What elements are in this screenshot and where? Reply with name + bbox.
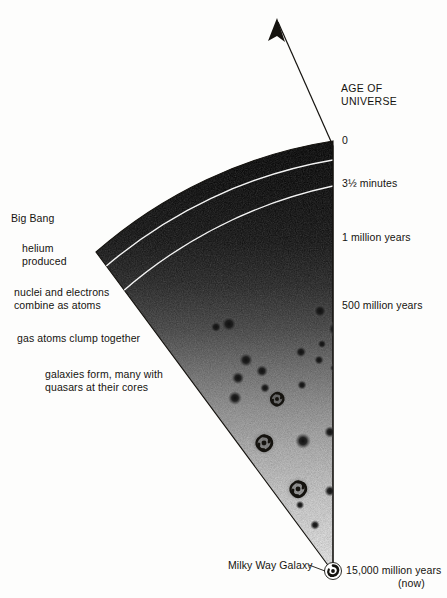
galaxy-blob: [310, 520, 320, 530]
spiral-galaxy: [251, 430, 276, 455]
galaxy-blob: [228, 391, 243, 406]
galaxy-blob: [221, 316, 237, 332]
age-of-universe-header: AGE OF UNIVERSE: [341, 82, 397, 108]
galaxy-blob: [314, 355, 324, 365]
spiral-galaxy: [285, 476, 310, 501]
tick-label-0: 0: [342, 134, 348, 147]
event-label-big-bang: Big Bang: [11, 212, 54, 225]
event-label-helium-produced: helium produced: [22, 242, 67, 268]
galaxy-blob: [324, 426, 336, 438]
tick-label-500-million-years: 500 million years: [342, 299, 423, 312]
event-label-nuclei-electrons: nuclei and electrons combine as atoms: [14, 286, 109, 312]
event-label-gas-atoms-clump: gas atoms clump together: [17, 332, 140, 345]
diagram-canvas: AGE OF UNIVERSE 0 3½ minutes 1 million y…: [0, 0, 447, 598]
galaxy-blob: [239, 353, 254, 368]
milky-way-galaxy-label: Milky Way Galaxy: [228, 559, 313, 572]
galaxy-blob: [295, 433, 311, 449]
galaxy-blob: [297, 380, 307, 390]
galaxy-blob: [324, 485, 336, 497]
galaxy-blob: [313, 304, 327, 318]
expansion-arrow-shaft: [278, 22, 333, 146]
galaxy-blob: [317, 339, 326, 348]
galaxy-blob: [231, 371, 244, 384]
galaxy-blob: [296, 501, 305, 510]
expansion-arrow-head: [268, 18, 285, 42]
galaxy-blob: [256, 365, 269, 378]
tick-label-15000-million-years: 15,000 million years: [346, 564, 441, 577]
galaxy-blob: [260, 383, 270, 393]
tick-label-1-million-years: 1 million years: [342, 231, 411, 244]
spiral-galaxy: [267, 389, 288, 410]
milky-way-galaxy-icon: [325, 563, 342, 580]
tick-label-3-5-minutes: 3½ minutes: [342, 177, 397, 190]
event-label-galaxies-form: galaxies form, many with quasars at thei…: [45, 368, 163, 394]
galaxy-blob: [295, 346, 307, 358]
galaxy-blob: [233, 470, 248, 485]
galaxy-blob: [210, 321, 222, 333]
galaxy-blob: [327, 321, 342, 336]
tick-label-now: (now): [398, 577, 425, 590]
galaxy-blob: [330, 364, 339, 373]
